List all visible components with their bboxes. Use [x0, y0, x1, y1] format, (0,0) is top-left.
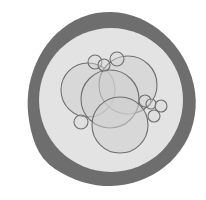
circle-right-4 — [148, 110, 160, 122]
circle-top-2 — [98, 59, 110, 71]
circle-right-2 — [146, 99, 156, 109]
circle-packing-diagram — [0, 0, 206, 200]
circle-left-bottom — [74, 115, 88, 129]
circle-bottom — [92, 97, 148, 153]
circle-top-3 — [110, 52, 124, 66]
diagram-canvas — [0, 0, 206, 200]
